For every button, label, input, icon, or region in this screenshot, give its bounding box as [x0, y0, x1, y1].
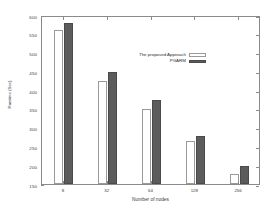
- y-tick-mark-right: [256, 35, 259, 36]
- bars-layer: [42, 17, 259, 184]
- legend-swatch-proposed: [189, 53, 206, 56]
- y-tick-mark-right: [256, 92, 259, 93]
- bar-pgarm-64: [152, 100, 161, 184]
- x-tick-mark: [63, 181, 64, 185]
- bar-chart: Runtime (Sec) 15020025030035040045050055…: [0, 0, 276, 210]
- legend-label-pgarm: PGARM: [170, 58, 186, 64]
- y-tick-mark-right: [256, 129, 259, 130]
- x-tick-label: 8: [43, 188, 83, 193]
- y-tick-mark-right: [256, 167, 259, 168]
- x-tick-mark-top: [194, 16, 195, 20]
- x-tick-mark-top: [107, 16, 108, 20]
- x-tick-mark-top: [63, 16, 64, 20]
- x-tick-mark-top: [238, 16, 239, 20]
- y-tick-mark-right: [256, 73, 259, 74]
- y-tick-mark-right: [256, 17, 259, 18]
- x-tick-mark: [194, 181, 195, 185]
- x-tick-label: 256: [218, 188, 258, 193]
- chart-legend: The proposed Approach PGARM: [139, 52, 206, 64]
- bar-the-proposed-approach-64: [142, 109, 151, 184]
- y-tick-mark-right: [256, 54, 259, 55]
- bar-pgarm-128: [196, 136, 205, 184]
- y-tick-mark-right: [256, 148, 259, 149]
- plot-area: The proposed Approach PGARM: [41, 16, 260, 185]
- bar-pgarm-32: [108, 72, 117, 184]
- y-axis-title: Runtime (Sec): [7, 65, 12, 125]
- bar-the-proposed-approach-8: [54, 30, 63, 184]
- x-tick-mark: [107, 181, 108, 185]
- bar-pgarm-8: [64, 23, 73, 184]
- x-tick-label: 32: [87, 188, 127, 193]
- legend-swatch-pgarm: [189, 60, 206, 63]
- x-tick-label: 128: [174, 188, 214, 193]
- x-axis-title: Number of nodes: [41, 197, 260, 202]
- legend-item: PGARM: [139, 58, 206, 64]
- bar-the-proposed-approach-32: [98, 81, 107, 184]
- y-tick-mark-right: [256, 186, 259, 187]
- bar-pgarm-256: [240, 166, 249, 184]
- x-tick-mark: [151, 181, 152, 185]
- y-tick-mark-right: [256, 110, 259, 111]
- x-tick-label: 64: [131, 188, 171, 193]
- x-tick-mark-top: [151, 16, 152, 20]
- bar-the-proposed-approach-128: [186, 141, 195, 184]
- x-tick-mark: [238, 181, 239, 185]
